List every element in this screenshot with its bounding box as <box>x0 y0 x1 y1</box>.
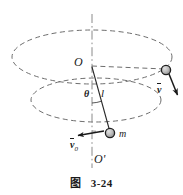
caption-cjk-word: 图 <box>70 177 82 189</box>
second-bob <box>161 65 170 74</box>
lower-orbit-ellipse <box>31 78 161 122</box>
figure-container: O θ l m O' v0 v 图3-24 <box>0 0 183 195</box>
figure-caption: 图3-24 <box>0 174 183 190</box>
velocity-initial-arrow <box>78 131 104 136</box>
label-mass-m: m <box>119 129 126 139</box>
label-axis-bottom-O-prime: O' <box>94 153 105 165</box>
caption-figure-number: 3-24 <box>91 177 113 189</box>
angle-arc <box>92 101 102 103</box>
mass-bob <box>105 128 114 137</box>
label-velocity-initial: v0 <box>70 140 78 153</box>
vector-overbar-v0: v <box>70 140 74 150</box>
radius-dashed-line <box>92 66 165 69</box>
label-velocity: v <box>157 85 161 95</box>
label-pivot-O: O <box>74 56 83 68</box>
label-angle-theta: θ <box>84 89 89 99</box>
velocity-initial-subscript: 0 <box>74 145 78 153</box>
vector-overbar-v: v <box>157 85 161 95</box>
label-string-length-l: l <box>101 88 104 99</box>
conical-pendulum-diagram <box>0 0 183 195</box>
velocity-arrow <box>169 74 178 95</box>
